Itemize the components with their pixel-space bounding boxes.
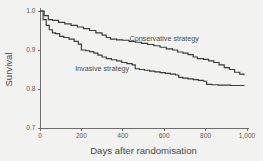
chart-canvas: 0.70.80.91.0 02004006008001,000 Conserva… bbox=[0, 0, 263, 161]
label-invasive-strategy: Invasive strategy bbox=[75, 64, 129, 73]
y-tick-label: 0.8 bbox=[26, 85, 35, 92]
y-axis-group: 0.70.80.91.0 bbox=[26, 7, 40, 131]
y-tick-labels: 0.70.80.91.0 bbox=[26, 7, 35, 131]
x-tick-labels: 02004006008001,000 bbox=[38, 132, 255, 139]
x-axis-group: 02004006008001,000 bbox=[38, 128, 255, 139]
y-tick-label: 1.0 bbox=[26, 7, 35, 14]
x-tick-label: 800 bbox=[200, 132, 211, 139]
curve-conservative-strategy bbox=[40, 11, 244, 75]
survival-chart-figure: 0.70.80.91.0 02004006008001,000 Conserva… bbox=[0, 0, 263, 161]
label-conservative-strategy: Conservative strategy bbox=[129, 34, 199, 43]
y-axis-title: Survival bbox=[3, 52, 14, 86]
series-group bbox=[40, 11, 244, 86]
y-tick-label: 0.7 bbox=[26, 124, 35, 131]
x-tick-label: 600 bbox=[159, 132, 170, 139]
x-tick-label: 0 bbox=[38, 132, 42, 139]
x-tick-label: 200 bbox=[76, 132, 87, 139]
annotation-group: Conservative strategy Invasive strategy bbox=[75, 34, 199, 73]
x-tick-label: 400 bbox=[117, 132, 128, 139]
x-tick-label: 1,000 bbox=[239, 132, 256, 139]
curve-invasive-strategy bbox=[40, 11, 244, 86]
x-axis-title: Days after randomisation bbox=[90, 145, 197, 156]
y-tick-label: 0.9 bbox=[26, 46, 35, 53]
